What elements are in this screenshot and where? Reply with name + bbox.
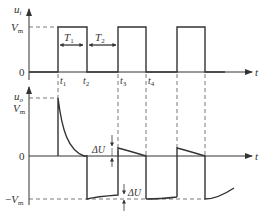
svg-text:T2: T2 (95, 31, 105, 45)
waveform-diagram: ui Vm 0 t T1 T2 t1 t2 t3 t4 ΔU (0, 0, 265, 221)
svg-text:−Vm: −Vm (5, 193, 24, 207)
svg-text:Vm: Vm (13, 102, 26, 116)
svg-text:Vm: Vm (11, 21, 24, 35)
delta-u-lower-label: ΔU (127, 187, 142, 198)
lower-t-label: t (255, 150, 259, 162)
lower-zero-label: 0 (19, 150, 25, 162)
output-waveform (58, 98, 234, 199)
svg-text:t3: t3 (120, 75, 127, 88)
upper-t-label: t (255, 66, 259, 78)
time-guides (58, 74, 205, 156)
input-square-wave (29, 27, 225, 72)
delta-u-upper-label: ΔU (91, 144, 106, 155)
svg-text:t2: t2 (83, 75, 90, 88)
svg-text:ui: ui (14, 3, 22, 17)
upper-plot: ui Vm 0 t T1 T2 t1 t2 t3 t4 (11, 3, 259, 88)
svg-text:t1: t1 (60, 75, 67, 88)
lower-plot: ΔU ΔU uo Vm 0 −Vm t (5, 87, 259, 211)
svg-text:t4: t4 (148, 75, 155, 88)
svg-text:T1: T1 (64, 31, 74, 45)
upper-zero-label: 0 (19, 66, 25, 78)
